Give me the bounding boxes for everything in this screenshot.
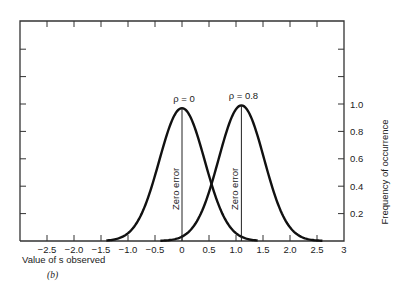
chart: −2.5−2.0−1.5−1.0−0.500.51.01.52.02.53 0.…	[0, 0, 397, 292]
distribution-curves	[106, 105, 322, 240]
x-tick-label: 0	[179, 244, 184, 255]
series-label: ρ = 0.8	[229, 90, 258, 101]
x-tick-label: 2.0	[283, 244, 296, 255]
x-tick-label: 1.5	[256, 244, 269, 255]
zero-error-lines: Zero errorZero error	[170, 105, 241, 241]
x-tick-label: 0.5	[202, 244, 215, 255]
x-tick-label: 1.0	[229, 244, 242, 255]
y-axis-title: Frequency of occurrence	[379, 119, 390, 224]
x-tick-label: 2.5	[310, 244, 323, 255]
y-tick-label: 0.2	[350, 208, 363, 219]
x-axis-title: Value of s observed	[22, 254, 105, 265]
x-tick-label: −1.0	[119, 244, 138, 255]
x-tick-label: −0.5	[146, 244, 165, 255]
y-tick-label: 0.8	[350, 126, 363, 137]
y-tick-label: 0.6	[350, 153, 363, 164]
zero-error-label: Zero error	[170, 168, 181, 210]
zero-error-label: Zero error	[229, 168, 240, 210]
y-axis-ticks: 0.20.40.60.81.0	[20, 49, 363, 219]
x-axis-ticks: −2.5−2.0−1.5−1.0−0.500.51.01.52.02.53	[38, 21, 347, 255]
y-tick-label: 1.0	[350, 99, 363, 110]
figure-caption: (b)	[47, 270, 58, 281]
x-tick-label: 3	[341, 244, 346, 255]
series-label: ρ = 0	[173, 93, 195, 104]
curve-labels: ρ = 0ρ = 0.8	[173, 90, 258, 104]
y-tick-label: 0.4	[350, 181, 363, 192]
